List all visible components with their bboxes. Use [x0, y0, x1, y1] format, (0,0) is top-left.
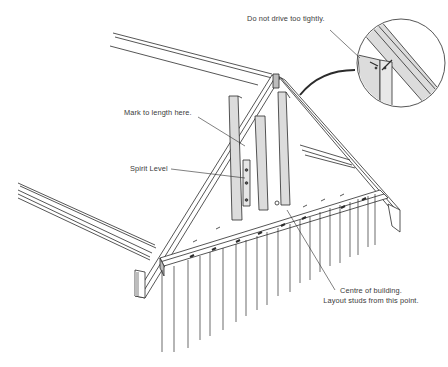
framing-illustration: [0, 0, 448, 367]
gable-framing-diagram: Do not drive too tightly. Mark to length…: [0, 0, 448, 367]
callout-centre-line2: Layout studs from this point.: [316, 296, 426, 305]
callout-centre-line1: Centre of building.: [316, 286, 426, 295]
callout-do-not-drive: Do not drive too tightly.: [247, 14, 325, 23]
callout-mark-to-length: Mark to length here.: [124, 108, 192, 117]
callout-spirit-level: Spirit Level: [130, 164, 168, 173]
